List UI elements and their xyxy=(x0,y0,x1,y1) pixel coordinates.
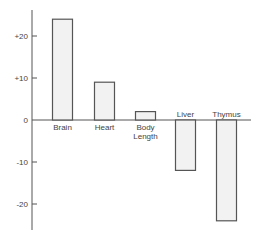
bar-thymus xyxy=(217,120,237,221)
category-label: Heart xyxy=(95,123,115,132)
category-label: Liver xyxy=(177,110,195,119)
category-label: Length xyxy=(133,132,157,141)
bar-body-length xyxy=(136,112,156,120)
y-tick-label: -10 xyxy=(16,158,28,167)
bar-liver xyxy=(176,120,196,170)
bar-brain xyxy=(53,19,73,120)
bar-chart: +20+100-10-20 BrainHeartBodyLengthLiverT… xyxy=(0,0,263,239)
category-label: Thymus xyxy=(212,110,240,119)
axes: +20+100-10-20 xyxy=(14,10,251,230)
category-label: Brain xyxy=(53,123,72,132)
y-tick-label: -20 xyxy=(16,200,28,209)
y-tick-label: +10 xyxy=(14,74,28,83)
category-label: Body xyxy=(136,123,154,132)
y-tick-label: 0 xyxy=(24,116,29,125)
y-tick-label: +20 xyxy=(14,32,28,41)
bar-heart xyxy=(95,82,115,120)
